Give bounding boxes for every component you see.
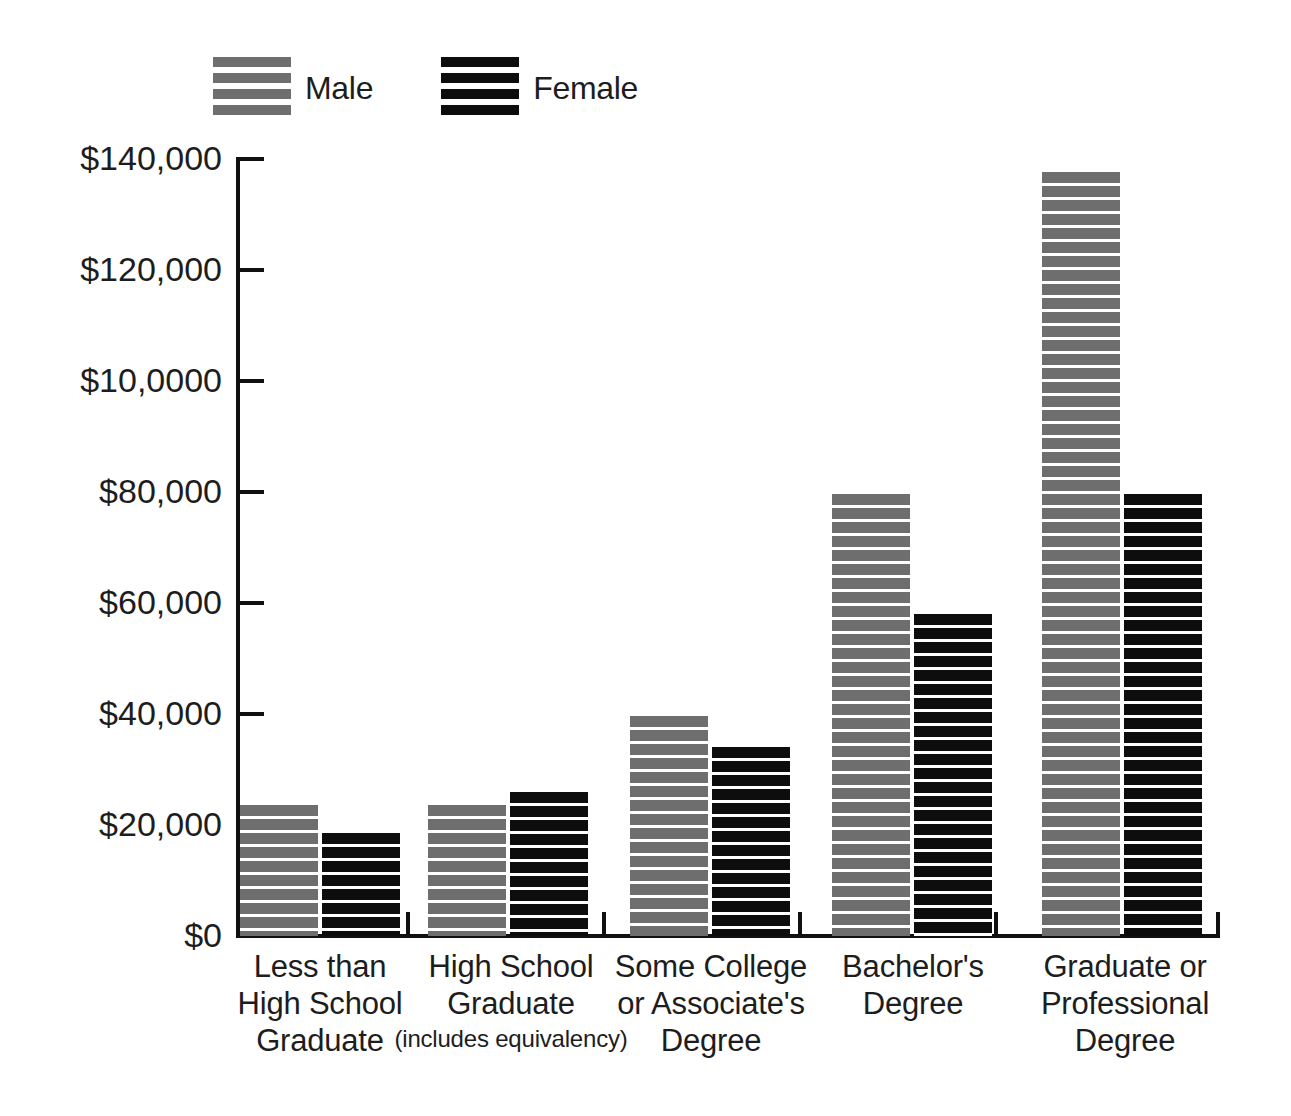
y-tick-140000	[236, 157, 264, 161]
category-line-2: Professional	[1041, 986, 1209, 1021]
category-label-bachelors-degree: Bachelor's Degree	[796, 948, 1030, 1022]
x-tick-boundary-1	[406, 912, 410, 938]
category-line-1: Bachelor's	[842, 949, 984, 984]
y-tick-60000	[236, 601, 264, 605]
y-tick-label-20000: $20,000	[0, 807, 222, 841]
category-label-graduate-professional: Graduate or Professional Degree	[1000, 948, 1250, 1059]
bar-female-graduate-professional[interactable]	[1124, 494, 1202, 936]
y-tick-label-100000: $10,0000	[0, 363, 222, 397]
category-line-3: Degree	[661, 1023, 761, 1058]
y-tick-80000	[236, 490, 264, 494]
category-line-3: Graduate	[256, 1023, 384, 1058]
category-line-2: Graduate	[447, 986, 575, 1021]
x-tick-boundary-3	[798, 912, 802, 938]
category-line-1: High School	[429, 949, 594, 984]
bar-male-some-college[interactable]	[630, 716, 708, 936]
bar-male-less-than-high-school[interactable]	[240, 805, 318, 936]
y-tick-label-40000: $40,000	[0, 696, 222, 730]
category-line-1: Some College	[615, 949, 807, 984]
bar-female-less-than-high-school[interactable]	[322, 833, 400, 936]
y-tick-120000	[236, 268, 264, 272]
x-tick-boundary-2	[602, 912, 606, 938]
y-tick-label-0: $0	[0, 918, 222, 952]
x-tick-boundary-4	[994, 912, 998, 938]
category-line-2: High School	[238, 986, 403, 1021]
chart-figure: Male Female $140,000 $120,000 $10,0000 $…	[0, 0, 1291, 1116]
category-line-2: Degree	[863, 986, 963, 1021]
x-tick-boundary-5	[1216, 912, 1220, 938]
bar-male-bachelors-degree[interactable]	[832, 494, 910, 936]
category-line-2: or Associate's	[617, 986, 804, 1021]
category-line-3: Degree	[1075, 1023, 1175, 1058]
y-tick-label-140000: $140,000	[0, 141, 222, 175]
y-tick-40000	[236, 712, 264, 716]
plot-area: $140,000 $120,000 $10,0000 $80,000 $60,0…	[0, 0, 1291, 1116]
y-tick-label-120000: $120,000	[0, 252, 222, 286]
bar-female-high-school-graduate[interactable]	[510, 792, 588, 936]
bar-male-graduate-professional[interactable]	[1042, 172, 1120, 936]
bar-female-bachelors-degree[interactable]	[914, 614, 992, 936]
y-tick-label-80000: $80,000	[0, 474, 222, 508]
category-line-1: Graduate or	[1043, 949, 1206, 984]
bar-female-some-college[interactable]	[712, 747, 790, 936]
y-tick-label-60000: $60,000	[0, 585, 222, 619]
y-tick-100000	[236, 379, 264, 383]
category-line-1: Less than	[254, 949, 387, 984]
bar-male-high-school-graduate[interactable]	[428, 805, 506, 936]
